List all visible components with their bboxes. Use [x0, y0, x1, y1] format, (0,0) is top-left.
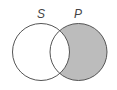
venn-diagram: S P: [0, 0, 117, 90]
label-p: P: [74, 7, 82, 21]
label-s: S: [37, 7, 45, 21]
